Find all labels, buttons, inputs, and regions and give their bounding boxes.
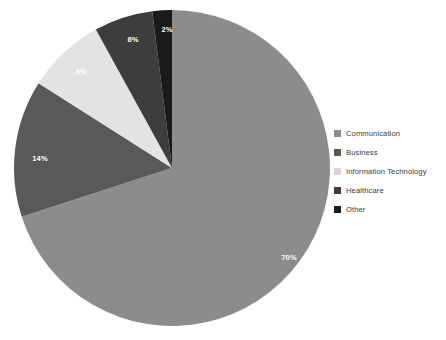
pie-chart-figure: 70%14%8%6%2% CommunicationBusinessInform… [0,0,446,340]
legend-item[interactable]: Communication [334,124,446,143]
legend-item-label: Business [346,149,378,157]
legend-item-label: Other [346,206,366,214]
legend-swatch-icon [334,187,341,194]
pie-slice-value-label: 6% [127,35,138,44]
legend-swatch-icon [334,168,341,175]
legend-swatch-icon [334,149,341,156]
legend-item[interactable]: Other [334,200,446,219]
legend-item-label: Healthcare [346,187,384,195]
legend-item-label: Information Technology [346,168,427,176]
pie-slice-value-label: 14% [32,154,48,163]
pie-chart-svg: 70%14%8%6%2% [12,8,332,328]
legend-item[interactable]: Information Technology [334,162,446,181]
pie-slice-value-label: 2% [161,25,172,34]
legend-item[interactable]: Healthcare [334,181,446,200]
pie-slice-group [14,10,330,326]
legend-item-label: Communication [346,130,400,138]
legend-swatch-icon [334,130,341,137]
legend-swatch-icon [334,206,341,213]
legend-item[interactable]: Business [334,143,446,162]
chart-legend: CommunicationBusinessInformation Technol… [334,124,446,219]
pie-slice-value-label: 8% [75,67,86,76]
pie-chart-plot-area: 70%14%8%6%2% [12,8,332,328]
pie-slice-value-label: 70% [281,253,297,262]
